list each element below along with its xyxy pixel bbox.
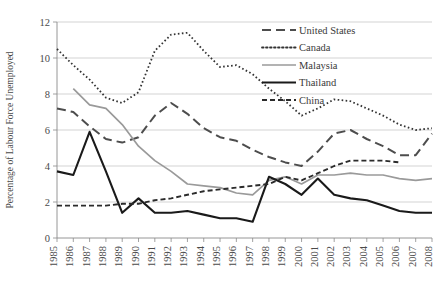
x-tick-label: 1985: [48, 246, 59, 267]
x-tick-label: 2004: [358, 245, 369, 267]
legend-label-malaysia: Malaysia: [299, 60, 338, 71]
x-axis-tick-labels: 1985198619871988198919901991199219931994…: [48, 238, 434, 267]
legend-label-united-states: United States: [299, 25, 355, 36]
data-series: [57, 33, 432, 222]
x-tick-label: 1988: [97, 246, 108, 267]
x-tick-label: 2006: [390, 246, 401, 267]
y-tick-label: 8: [45, 89, 50, 100]
y-axis-title: Percentage of Labour Force Unemployed: [5, 51, 15, 208]
x-tick-label: 1998: [260, 246, 271, 267]
x-tick-label: 1999: [276, 246, 287, 267]
y-tick-label: 0: [45, 233, 50, 244]
x-tick-label: 2003: [341, 246, 352, 267]
y-tick-label: 12: [40, 17, 51, 28]
x-tick-label: 2001: [309, 246, 320, 267]
y-tick-label: 10: [40, 53, 51, 64]
x-tick-label: 2002: [325, 246, 336, 267]
x-tick-label: 2008: [423, 246, 434, 267]
x-tick-label: 1991: [146, 246, 157, 267]
legend-label-canada: Canada: [299, 42, 331, 53]
y-tick-label: 4: [45, 161, 51, 172]
y-tick-label: 2: [45, 197, 50, 208]
x-tick-label: 1997: [244, 246, 255, 267]
x-tick-label: 1986: [64, 246, 75, 267]
x-tick-label: 2007: [407, 246, 418, 267]
x-tick-label: 1990: [130, 246, 141, 267]
x-tick-label: 1996: [227, 246, 238, 267]
chart-canvas: 024681012 198519861987198819891990199119…: [0, 0, 440, 294]
x-tick-label: 1994: [195, 245, 206, 267]
legend-label-china: China: [299, 95, 324, 106]
x-tick-label: 1993: [178, 246, 189, 267]
x-tick-label: 1989: [113, 246, 124, 267]
unemployment-line-chart: 024681012 198519861987198819891990199119…: [0, 0, 440, 294]
x-tick-label: 1995: [211, 246, 222, 267]
y-axis-tick-labels: 024681012: [40, 17, 58, 244]
x-tick-label: 2000: [293, 246, 304, 267]
x-tick-label: 2005: [374, 246, 385, 267]
series-line-malaysia: [73, 89, 432, 195]
legend-label-thailand: Thailand: [299, 77, 337, 88]
y-tick-label: 6: [45, 125, 50, 136]
x-tick-label: 1992: [162, 246, 173, 267]
x-tick-label: 1987: [81, 246, 92, 267]
